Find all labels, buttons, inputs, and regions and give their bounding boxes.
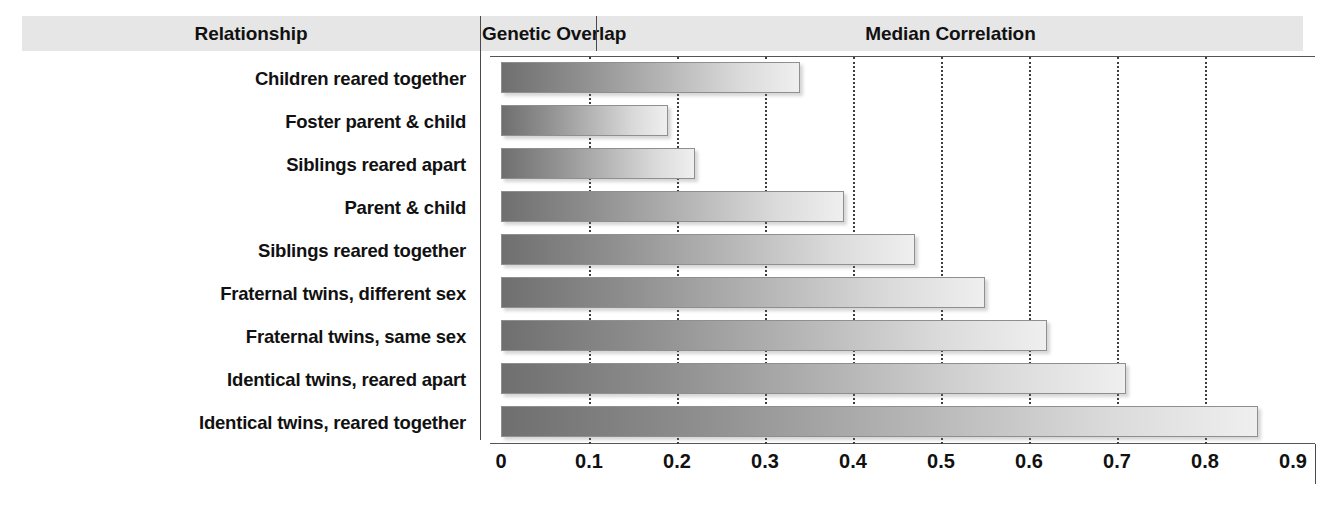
row-label-relationship: Children reared together: [0, 57, 466, 100]
x-tick-label: 0.4: [839, 450, 867, 473]
correlation-chart-figure: Relationship Genetic Overlap Median Corr…: [0, 0, 1323, 506]
row-label-relationship: Siblings reared apart: [0, 143, 466, 186]
bar: [501, 234, 915, 265]
bar: [501, 105, 668, 136]
bar-track: [501, 229, 1315, 272]
bar: [501, 363, 1126, 394]
row-label-relationship: Fraternal twins, same sex: [0, 315, 466, 358]
bar-track: [501, 57, 1315, 100]
bar: [501, 191, 844, 222]
row-label-relationship: Foster parent & child: [0, 100, 466, 143]
table-row: Fraternal twins, same sex50%: [0, 315, 1323, 358]
x-tick-label: 0.1: [575, 450, 603, 473]
row-label-relationship: Siblings reared together: [0, 229, 466, 272]
x-tick-label: 0.8: [1191, 450, 1219, 473]
x-tick-label: 0: [495, 450, 506, 473]
table-row: Fraternal twins, different sex50%: [0, 272, 1323, 315]
bar-track: [501, 143, 1315, 186]
row-label-relationship: Identical twins, reared apart: [0, 358, 466, 401]
column-divider-right: [596, 16, 597, 51]
table-row: Siblings reared together50%: [0, 229, 1323, 272]
bar-track: [501, 100, 1315, 143]
bar: [501, 320, 1047, 351]
bar: [501, 277, 985, 308]
table-row: Identical twins, reared together100%: [0, 401, 1323, 444]
column-header-genetic-overlap: Genetic Overlap: [482, 16, 594, 51]
table-row: Children reared together0%: [0, 57, 1323, 100]
row-label-relationship: Parent & child: [0, 186, 466, 229]
table-row: Identical twins, reared apart100%: [0, 358, 1323, 401]
bar-track: [501, 401, 1315, 444]
x-tick-label: 0.2: [663, 450, 691, 473]
column-header-median-correlation: Median Correlation: [598, 16, 1303, 51]
chart-rows: Children reared together0%Foster parent …: [0, 57, 1323, 444]
x-tick-label: 0.3: [751, 450, 779, 473]
bar: [501, 62, 800, 93]
table-row: Parent & child50%: [0, 186, 1323, 229]
table-row: Foster parent & child0%: [0, 100, 1323, 143]
x-tick-label: 0.9: [1279, 450, 1307, 473]
column-header-relationship: Relationship: [22, 16, 480, 51]
bar-track: [501, 186, 1315, 229]
x-tick-label: 0.6: [1015, 450, 1043, 473]
bar-track: [501, 315, 1315, 358]
table-row: Siblings reared apart50%: [0, 143, 1323, 186]
bar-track: [501, 272, 1315, 315]
bar: [501, 406, 1258, 437]
x-tick-label: 0.7: [1103, 450, 1131, 473]
bar-track: [501, 358, 1315, 401]
row-label-relationship: Identical twins, reared together: [0, 401, 466, 444]
axis-end-tick: [1315, 444, 1316, 484]
bar: [501, 148, 695, 179]
x-tick-label: 0.5: [927, 450, 955, 473]
row-label-relationship: Fraternal twins, different sex: [0, 272, 466, 315]
